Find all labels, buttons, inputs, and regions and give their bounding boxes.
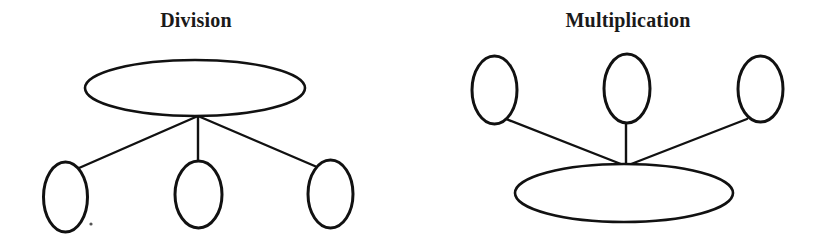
- division-scan-speck: [89, 222, 92, 225]
- multiplication-factor-ellipse-left: [472, 56, 517, 124]
- division-part-ellipse-right: [308, 160, 353, 228]
- multiplication-title: Multiplication: [565, 9, 690, 32]
- figure-canvas: Division Multiplication: [0, 0, 823, 239]
- division-diagram: Division: [44, 9, 354, 232]
- multiplication-edge-right: [626, 119, 747, 166]
- multiplication-factor-ellipse-right: [738, 56, 783, 122]
- division-edge-left: [79, 116, 198, 168]
- division-title: Division: [160, 9, 232, 31]
- division-part-ellipse-left: [44, 162, 88, 232]
- division-whole-ellipse: [85, 60, 305, 116]
- division-edge-right: [198, 116, 317, 167]
- diagram-svg: Division Multiplication: [0, 0, 823, 239]
- multiplication-edge-left: [506, 119, 626, 166]
- multiplication-factor-ellipse-middle: [604, 54, 650, 123]
- multiplication-product-ellipse: [515, 164, 733, 222]
- division-part-ellipse-middle: [175, 161, 222, 228]
- multiplication-diagram: Multiplication: [472, 9, 783, 222]
